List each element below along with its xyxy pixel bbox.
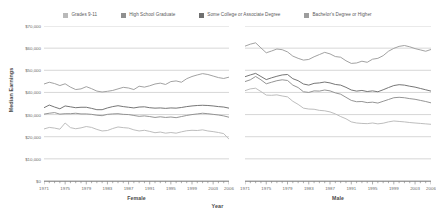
panel-male bbox=[245, 26, 431, 181]
y-axis-tick-label: $60,000 bbox=[7, 46, 41, 51]
legend-swatch-icon bbox=[121, 13, 126, 18]
panel-male-plot bbox=[245, 26, 431, 181]
series-line bbox=[245, 76, 431, 103]
x-axis-tick-label: 1991 bbox=[145, 186, 155, 191]
panel-male-title: Male bbox=[245, 195, 431, 201]
x-axis-tick-label: 2006 bbox=[224, 186, 234, 191]
x-axis-tick-label: 1975 bbox=[261, 186, 271, 191]
panel-plot-svg bbox=[245, 26, 431, 181]
x-axis-tick-label: 1983 bbox=[103, 186, 113, 191]
x-axis-tick-label: 1999 bbox=[187, 186, 197, 191]
x-axis-tick-label: 1987 bbox=[325, 186, 335, 191]
panel-female-plot bbox=[44, 26, 229, 181]
legend-entry[interactable]: Some College or Associate Degree bbox=[199, 12, 280, 18]
x-axis-svg bbox=[44, 181, 229, 186]
x-axis-tick-label: 2003 bbox=[410, 186, 420, 191]
panel-female-title: Female bbox=[44, 195, 229, 201]
x-axis-tick-label: 1987 bbox=[124, 186, 134, 191]
x-axis-svg bbox=[245, 181, 431, 186]
legend-entry[interactable]: High School Graduate bbox=[121, 12, 175, 18]
chart-legend: Grades 9-11High School GraduateSome Coll… bbox=[0, 8, 435, 22]
panel-plot-svg bbox=[44, 26, 229, 181]
y-axis-tick-label: $0 bbox=[7, 179, 41, 184]
legend-swatch-icon bbox=[304, 13, 309, 18]
series-line bbox=[245, 73, 431, 91]
panel-female bbox=[44, 26, 229, 181]
y-axis-tick-label: $30,000 bbox=[7, 112, 41, 117]
x-axis-female: 1971197519791983198719911995199920032006 bbox=[44, 181, 229, 193]
x-axis-tick-label: 1979 bbox=[283, 186, 293, 191]
x-axis-tick-label: 1995 bbox=[166, 186, 176, 191]
legend-label: Grades 9-11 bbox=[71, 12, 97, 18]
x-axis-tick-label: 2006 bbox=[426, 186, 436, 191]
x-axis-title: Year bbox=[0, 203, 435, 209]
series-line bbox=[44, 113, 229, 118]
y-axis-tick-label: $10,000 bbox=[7, 156, 41, 161]
y-axis-tick-label: $20,000 bbox=[7, 134, 41, 139]
legend-label: Some College or Associate Degree bbox=[207, 12, 280, 18]
x-axis-tick-label: 1971 bbox=[240, 186, 250, 191]
x-axis-tick-label: 1979 bbox=[81, 186, 91, 191]
legend-entry[interactable]: Grades 9-11 bbox=[63, 12, 97, 18]
legend-entry[interactable]: Bachelor's Degree or Higher bbox=[304, 12, 371, 18]
x-axis-tick-label: 1995 bbox=[368, 186, 378, 191]
series-line bbox=[245, 43, 431, 64]
x-axis-tick-label: 1983 bbox=[304, 186, 314, 191]
x-axis-tick-label: 1975 bbox=[60, 186, 70, 191]
legend-label: High School Graduate bbox=[129, 12, 175, 18]
x-axis-tick-label: 1991 bbox=[346, 186, 356, 191]
x-axis-tick-label: 1999 bbox=[389, 186, 399, 191]
y-axis-tick-label: $70,000 bbox=[7, 24, 41, 29]
y-axis-tick-label: $50,000 bbox=[7, 68, 41, 73]
legend-swatch-icon bbox=[63, 13, 68, 18]
y-axis-tick-labels: $70,000$60,000$50,000$40,000$30,000$20,0… bbox=[0, 0, 41, 217]
x-axis-tick-label: 2003 bbox=[208, 186, 218, 191]
x-axis-tick-label: 1971 bbox=[39, 186, 49, 191]
series-line bbox=[44, 105, 229, 110]
series-line bbox=[44, 74, 229, 92]
x-axis-male: 1971197519791983198719911995199920032006 bbox=[245, 181, 431, 193]
legend-label: Bachelor's Degree or Higher bbox=[312, 12, 371, 18]
y-axis-tick-label: $40,000 bbox=[7, 90, 41, 95]
legend-swatch-icon bbox=[199, 13, 204, 18]
